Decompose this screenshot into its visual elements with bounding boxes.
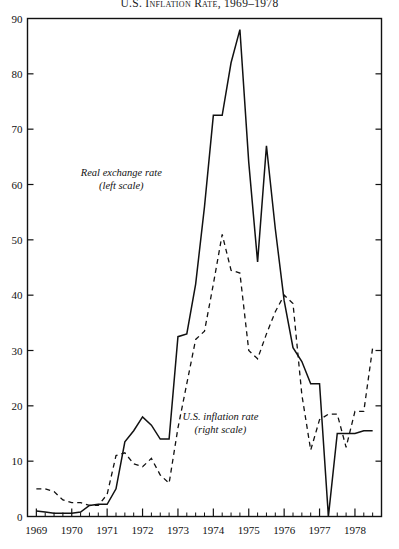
x-tick-label: 1975 <box>238 524 261 536</box>
y-tick-label: 10 <box>12 455 24 467</box>
annotation-us-inflation-rate: U.S. inflation rate (right scale) <box>160 410 280 436</box>
series-line-solid <box>36 30 372 517</box>
y-tick-label: 0 <box>17 511 23 523</box>
annotation-real-exchange-rate: Real exchange rate (left scale) <box>59 166 183 192</box>
y-axis-tick-labels: 0102030405060708090 <box>12 13 24 523</box>
y-tick-label: 60 <box>12 179 24 191</box>
x-tick-label: 1978 <box>344 524 367 536</box>
series-line-dashed <box>36 234 372 505</box>
x-tick-label: 1969 <box>25 524 48 536</box>
y-tick-label: 20 <box>12 400 24 412</box>
inflation-rate-figure: U.S. Inflation Rate, 1969–1978 010203040… <box>0 0 399 549</box>
y-tick-label: 30 <box>12 345 24 357</box>
axes-frame <box>28 19 382 517</box>
x-tick-label: 1970 <box>61 524 84 536</box>
x-tick-label: 1977 <box>309 524 332 536</box>
y-axis-ticks <box>28 74 382 461</box>
x-axis-ticks <box>36 509 372 517</box>
y-tick-label: 90 <box>12 13 24 25</box>
annotation-inflation-line2: (right scale) <box>160 423 280 436</box>
x-axis-tick-labels: 1969197019711972197319741975197619771978 <box>25 524 366 536</box>
x-tick-label: 1976 <box>273 524 296 536</box>
y-tick-label: 70 <box>12 123 24 135</box>
y-tick-label: 50 <box>12 234 24 246</box>
x-tick-label: 1972 <box>132 524 154 536</box>
x-tick-label: 1973 <box>167 524 190 536</box>
y-tick-label: 40 <box>12 289 24 301</box>
y-tick-label: 80 <box>12 68 24 80</box>
data-series-group <box>36 30 372 517</box>
x-tick-label: 1971 <box>96 524 118 536</box>
chart-plot-area: 0102030405060708090 19691970197119721973… <box>0 0 399 549</box>
annotation-exchange-line1: Real exchange rate <box>81 167 162 178</box>
annotation-exchange-line2: (left scale) <box>59 179 183 192</box>
x-tick-label: 1974 <box>202 524 225 536</box>
annotation-inflation-line1: U.S. inflation rate <box>183 411 259 422</box>
